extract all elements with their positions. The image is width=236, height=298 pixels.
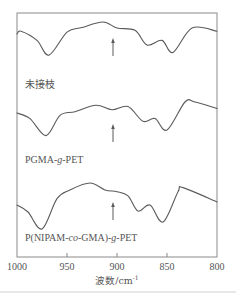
spectrum-curve-3 [17, 183, 217, 229]
series-label-ungrafted: 未接枝 [25, 78, 55, 90]
arrow-head-icon [111, 38, 115, 43]
x-tick-label-800: 800 [210, 261, 225, 272]
x-axis-title: 波数/cm-1 [95, 274, 138, 286]
x-tick-label-1000: 1000 [7, 261, 27, 272]
peak-arrows [111, 38, 115, 220]
spectrum-curve-1 [17, 22, 217, 55]
x-tick-label-950: 950 [60, 261, 75, 272]
series-label-pgma-g-pet: PGMA-g-PET [25, 154, 83, 165]
arrow-head-icon [111, 202, 115, 207]
spectrum-curve-2 [17, 100, 217, 136]
x-tick-label-900: 900 [110, 261, 125, 272]
x-tick-label-850: 850 [160, 261, 175, 272]
series-label-pnipam-co-gma-g-pet: P(NIPAM-co-GMA)-g-PET [25, 232, 137, 244]
ftir-spectrum-chart: 未接枝 PGMA-g-PET P(NIPAM-co-GMA)-g-PET 100… [0, 0, 236, 298]
spectra-curves [17, 22, 217, 229]
arrow-head-icon [111, 124, 115, 129]
x-axis: 1000 950 900 850 800 波数/cm-1 [7, 253, 225, 286]
